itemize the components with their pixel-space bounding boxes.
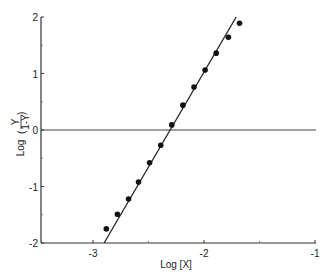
y-axis-title: Log ( Y 1-Y ) [10,112,31,157]
chart: -2-1012-3-2-1 Log [X] Log ( Y 1-Y ) [0,0,327,279]
data-point [158,142,164,148]
x-axis-title: Log [X] [160,259,192,270]
data-point [147,160,153,166]
y-tick-label: 0 [32,125,38,136]
y-tick-label: -2 [29,238,38,249]
axes [41,17,316,243]
data-point [180,102,186,108]
data-point [226,35,232,41]
data-point [237,20,243,26]
data-point [191,84,197,90]
data-point [104,226,110,232]
ticks: -2-1012-3-2-1 [29,12,320,259]
x-tick-label: -2 [200,248,209,259]
y-tick-label: 2 [32,12,38,23]
y-axis-title-denominator: 1-Y [20,114,31,130]
y-tick-label: -1 [29,182,38,193]
x-tick-label: -3 [89,248,98,259]
y-axis-title-paren-close: ) [16,112,27,115]
data-point [126,196,132,202]
x-tick-label: -1 [311,248,320,259]
data-point [213,50,219,56]
y-axis-title-prefix: Log [15,140,26,157]
data-point [169,122,175,128]
y-tick-label: 1 [32,69,38,80]
data-point [115,211,121,217]
data-point [136,179,142,185]
data-point [202,67,208,73]
data-points [104,20,243,231]
